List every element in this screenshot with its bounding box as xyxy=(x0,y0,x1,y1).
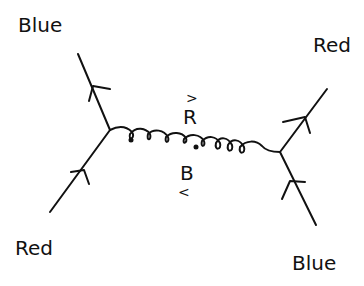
gluon-lower-arrow: < xyxy=(178,184,190,200)
arrow-up-icon xyxy=(89,86,110,101)
outgoing-red-quark-line xyxy=(280,89,327,152)
gluon-dot xyxy=(129,138,134,143)
label-bottom-right: Blue xyxy=(292,251,336,275)
label-bottom-left: Red xyxy=(15,236,53,260)
gluon-upper-label: R xyxy=(183,105,197,129)
gluon-dot xyxy=(194,145,199,150)
outgoing-blue-quark-line xyxy=(78,54,110,130)
gluon-lower-label: B xyxy=(180,161,194,185)
incoming-blue-quark-line xyxy=(280,152,316,225)
feynman-diagram: Blue Red Red Blue > R B < xyxy=(0,0,364,286)
gluon-upper-arrow: > xyxy=(186,90,198,106)
incoming-red-quark-line xyxy=(50,130,110,212)
label-top-right: Red xyxy=(313,33,351,57)
label-top-left: Blue xyxy=(18,13,62,37)
